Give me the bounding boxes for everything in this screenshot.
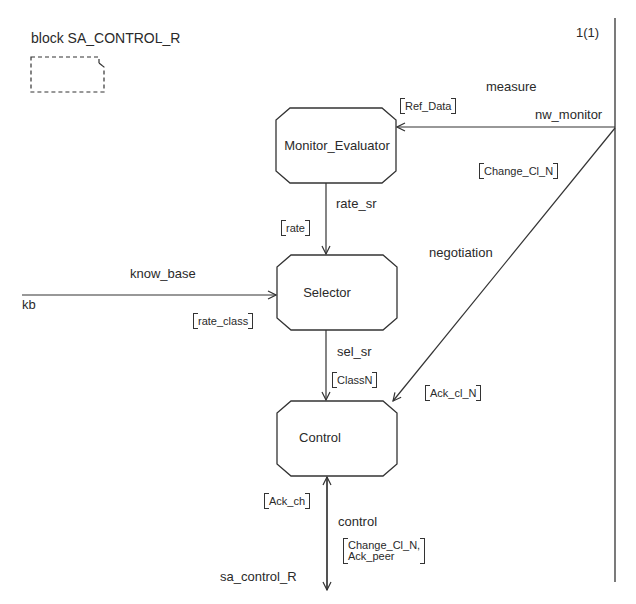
rate-class-signal-list: rate_class [193, 313, 253, 329]
control-channel-label: control [338, 515, 377, 529]
rate-signal-list: rate [281, 220, 310, 236]
measure-channel-label: measure [486, 80, 537, 94]
know-base-channel-label: know_base [130, 267, 196, 281]
change-cl-n-ack-peer-signal-list: Change_Cl_N, Ack_peer [343, 538, 425, 564]
ack-cl-n-signal-list: Ack_cl_N [425, 385, 481, 401]
control-block[interactable]: Control [277, 431, 363, 445]
negotiation-channel-label: negotiation [429, 246, 493, 260]
signal-ack-peer: Ack_peer [348, 551, 420, 562]
block-title: block SA_CONTROL_R [31, 31, 180, 45]
nw-monitor-gate-label: nw_monitor [535, 108, 602, 122]
change-cl-n-signal-list: Change_Cl_N [479, 163, 558, 179]
monitor-evaluator-block[interactable]: Monitor_Evaluator [272, 139, 402, 153]
diagram-canvas [0, 0, 636, 604]
classn-signal-list: ClassN [332, 372, 377, 388]
selector-block[interactable]: Selector [277, 286, 377, 300]
ref-data-signal-list: Ref_Data [400, 98, 456, 114]
rate-sr-channel-label: rate_sr [336, 197, 376, 211]
ack-ch-signal-list: Ack_ch [264, 493, 310, 509]
page-number: 1(1) [576, 26, 599, 40]
sel-sr-channel-label: sel_sr [337, 345, 372, 359]
sa-control-r-gate-label: sa_control_R [220, 570, 297, 584]
block-reference-icon [31, 57, 104, 92]
kb-gate-label: kb [22, 298, 36, 312]
